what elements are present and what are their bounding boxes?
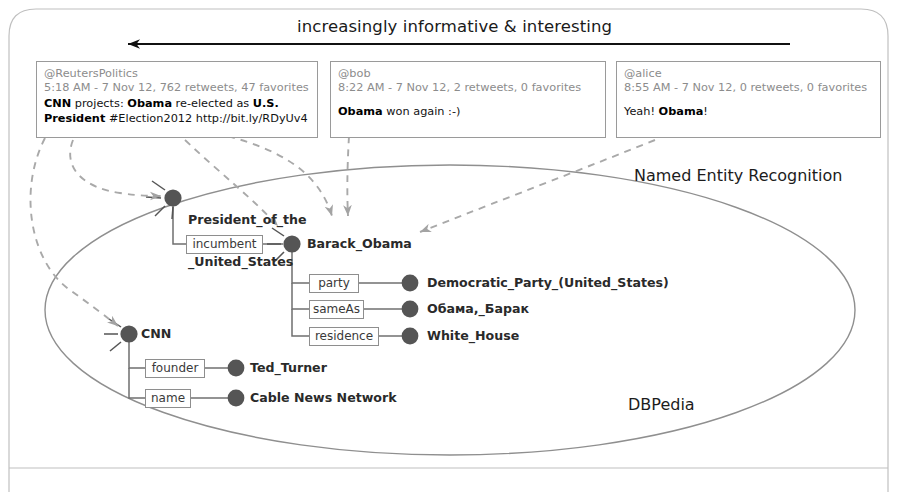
predicate-incumbent: incumbent bbox=[186, 235, 263, 254]
link-alice-obama bbox=[420, 140, 655, 232]
predicate-residence: residence bbox=[309, 327, 379, 346]
tweet-handle: @bob bbox=[338, 67, 598, 81]
node-obama-ru bbox=[402, 301, 419, 318]
tweet-entity-us: U.S. bbox=[253, 97, 279, 110]
link-reuters-cnn bbox=[30, 138, 118, 326]
node-white-house bbox=[402, 328, 419, 345]
entity-label-obama-barack-ru: Обама,_Барак bbox=[427, 302, 529, 316]
entity-label-ted-turner: Ted_Turner bbox=[250, 361, 327, 375]
region-label-ner: Named Entity Recognition bbox=[634, 166, 842, 185]
tweet-meta: 8:22 AM - 7 Nov 12, 2 retweets, 0 favori… bbox=[338, 81, 598, 95]
link-bob-obama bbox=[347, 136, 349, 216]
tweet-entity-president: President bbox=[44, 112, 105, 125]
tweet-text: CNN projects: Obama re-elected as U.S.Pr… bbox=[44, 97, 310, 125]
entity-label-democratic-party: Democratic_Party_(United_States) bbox=[427, 276, 669, 290]
tweet-entity-obama: Obama bbox=[338, 105, 383, 118]
entity-label-cnn: CNN bbox=[141, 327, 171, 341]
tweet-meta: 5:18 AM - 7 Nov 12, 762 retweets, 47 fav… bbox=[44, 81, 310, 95]
predicate-sameas: sameAs bbox=[309, 300, 364, 319]
predicate-party: party bbox=[309, 274, 359, 293]
entity-label-barack-obama: Barack_Obama bbox=[307, 237, 412, 251]
node-ted-turner bbox=[228, 360, 245, 377]
predicate-founder: founder bbox=[145, 359, 205, 378]
entity-label-cable-news-network: Cable News Network bbox=[250, 391, 397, 405]
tweet-meta: 8:55 AM - 7 Nov 12, 0 retweets, 0 favori… bbox=[624, 81, 873, 95]
ner-dashed-links bbox=[30, 136, 655, 326]
tweet-card-reuterspolitics[interactable]: @ReutersPolitics 5:18 AM - 7 Nov 12, 762… bbox=[36, 61, 318, 138]
entity-label-white-house: White_House bbox=[427, 329, 519, 343]
page-title: increasingly informative & interesting bbox=[297, 17, 612, 36]
region-label-dbpedia: DBPedia bbox=[628, 395, 695, 414]
node-cable-news-network bbox=[228, 390, 245, 407]
link-reuters-potus bbox=[70, 140, 161, 196]
node-cnn bbox=[104, 319, 138, 351]
tweet-entity-obama: Obama bbox=[659, 105, 704, 118]
tweet-card-alice[interactable]: @alice 8:55 AM - 7 Nov 12, 0 retweets, 0… bbox=[616, 61, 881, 138]
tweet-handle: @ReutersPolitics bbox=[44, 67, 310, 81]
tweet-entity-obama: Obama bbox=[127, 97, 172, 110]
tweet-text: Obama won again :-) bbox=[338, 105, 598, 119]
node-president-of-the-united-states bbox=[146, 181, 182, 219]
tweet-entity-cnn: CNN bbox=[44, 97, 71, 110]
tweet-text: Yeah! Obama! bbox=[624, 105, 873, 119]
predicate-name: name bbox=[145, 389, 191, 408]
figure-root: increasingly informative & interesting @… bbox=[0, 0, 898, 493]
tweet-handle: @alice bbox=[624, 67, 873, 81]
tweet-card-bob[interactable]: @bob 8:22 AM - 7 Nov 12, 2 retweets, 0 f… bbox=[330, 61, 606, 138]
node-democratic-party bbox=[402, 275, 419, 292]
